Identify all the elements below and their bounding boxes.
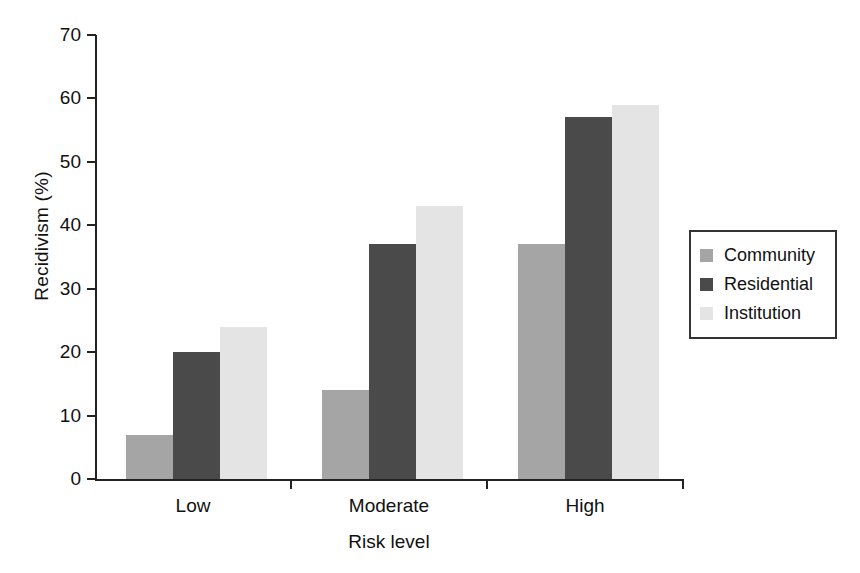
bar-community-high <box>518 244 565 479</box>
y-tick-label: 20 <box>35 342 81 361</box>
bar-community-low <box>126 435 173 479</box>
y-tick-label: 70 <box>35 25 81 44</box>
legend-label-institution: Institution <box>724 303 801 324</box>
y-tick-label: 50 <box>35 152 81 171</box>
y-tick-label: 30 <box>35 279 81 298</box>
legend-item: Institution <box>700 299 827 328</box>
legend-swatch-institution <box>700 307 713 320</box>
y-tick-label: 40 <box>35 215 81 234</box>
bar-institution-high <box>612 105 659 479</box>
x-tick-label: High <box>505 495 665 517</box>
y-tick-label: 60 <box>35 88 81 107</box>
x-tick-mark <box>290 479 292 489</box>
x-axis-line <box>95 479 683 481</box>
legend-label-residential: Residential <box>724 274 813 295</box>
x-tick-label: Low <box>113 495 273 517</box>
bar-community-moderate <box>322 390 369 479</box>
legend-swatch-community <box>700 249 713 262</box>
bar-institution-low <box>220 327 267 479</box>
y-tick-mark <box>87 478 96 480</box>
legend-label-community: Community <box>724 245 815 266</box>
x-tick-mark <box>486 479 488 489</box>
x-tick-label: Moderate <box>309 495 469 517</box>
legend-item: Residential <box>700 270 827 299</box>
y-tick-mark <box>87 97 96 99</box>
x-tick-mark-end <box>682 479 684 489</box>
y-tick-mark <box>87 34 96 36</box>
bar-chart-figure: Recidivism (%) 010203040506070 LowModera… <box>0 0 860 573</box>
y-tick-mark <box>87 288 96 290</box>
bar-residential-low <box>173 352 220 479</box>
bar-residential-high <box>565 117 612 479</box>
y-tick-mark <box>87 161 96 163</box>
y-tick-label: 0 <box>35 469 81 488</box>
y-tick-mark <box>87 415 96 417</box>
x-axis-title: Risk level <box>95 531 683 553</box>
y-tick-label: 10 <box>35 406 81 425</box>
y-tick-mark <box>87 351 96 353</box>
legend: Community Residential Institution <box>689 230 837 339</box>
legend-item: Community <box>700 241 827 270</box>
bar-institution-moderate <box>416 206 463 479</box>
y-tick-mark <box>87 224 96 226</box>
legend-swatch-residential <box>700 278 713 291</box>
bar-residential-moderate <box>369 244 416 479</box>
